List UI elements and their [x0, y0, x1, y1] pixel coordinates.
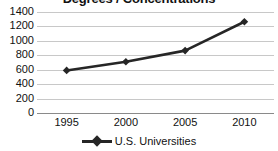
- data-point-marker: [122, 58, 130, 66]
- plot-area: [37, 12, 274, 113]
- line-chart: Degrees / Concentrations 020040060080010…: [0, 0, 278, 151]
- y-tick-label: 1200: [0, 20, 34, 31]
- x-tick-label: 2000: [104, 116, 148, 128]
- y-tick-label: 0: [0, 107, 34, 118]
- y-tick-label: 400: [0, 78, 34, 89]
- axis-baseline: [37, 113, 274, 114]
- chart-title: Degrees / Concentrations: [0, 0, 278, 6]
- data-point-marker: [63, 67, 71, 75]
- x-tick-label: 2010: [222, 116, 266, 128]
- series-line: [67, 22, 245, 71]
- y-axis-tick-labels: 0200400600800100012001400: [0, 12, 34, 113]
- legend-label: U.S. Universities: [115, 135, 196, 147]
- y-tick-label: 1000: [0, 35, 34, 46]
- y-tick-label: 200: [0, 93, 34, 104]
- legend-item-us-universities: U.S. Universities: [82, 135, 196, 147]
- x-tick-label: 2005: [163, 116, 207, 128]
- y-tick-label: 600: [0, 64, 34, 75]
- x-axis-tick-labels: 1995200020052010: [37, 116, 274, 130]
- y-tick-label: 1400: [0, 6, 34, 17]
- y-tick-label: 800: [0, 49, 34, 60]
- chart-legend: U.S. Universities: [0, 133, 278, 149]
- series-plot: [37, 12, 274, 113]
- legend-line-marker-icon: [82, 136, 112, 147]
- x-tick-label: 1995: [45, 116, 89, 128]
